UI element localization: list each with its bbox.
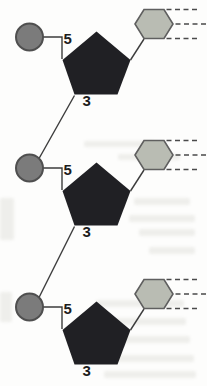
five-prime-label: 5 bbox=[64, 300, 72, 317]
five-prime-label: 5 bbox=[64, 161, 72, 178]
phosphate-circle-icon bbox=[16, 155, 43, 182]
backbone-bond-line bbox=[39, 227, 75, 298]
page: 5 3 5 3 bbox=[0, 0, 207, 386]
three-prime-label: 3 bbox=[83, 92, 91, 109]
sugar-pentagon-icon bbox=[63, 163, 131, 226]
phosphate-bond-line bbox=[43, 168, 62, 190]
phosphate-bond-line bbox=[43, 307, 62, 329]
phosphate-circle-icon bbox=[16, 24, 43, 51]
sugar-pentagon-icon bbox=[63, 302, 131, 365]
dna-strand-diagram: 5 3 5 3 bbox=[0, 0, 207, 386]
three-prime-label: 3 bbox=[83, 362, 91, 379]
base-hexagon-icon bbox=[135, 10, 173, 39]
phosphate-bond-line bbox=[43, 37, 62, 59]
base-hexagon-icon bbox=[135, 141, 173, 170]
glycosidic-bond-line bbox=[131, 170, 145, 191]
nucleotide-unit: 5 3 bbox=[16, 280, 207, 379]
base-hexagon-icon bbox=[135, 280, 173, 309]
five-prime-label: 5 bbox=[64, 30, 72, 47]
nucleotide-unit: 5 3 bbox=[16, 141, 207, 240]
phosphate-circle-icon bbox=[16, 294, 43, 321]
nucleotide-unit: 5 3 bbox=[16, 10, 207, 109]
sugar-pentagon-icon bbox=[63, 32, 131, 95]
glycosidic-bond-line bbox=[131, 39, 145, 60]
three-prime-label: 3 bbox=[83, 223, 91, 240]
backbone-bond-line bbox=[39, 96, 75, 159]
glycosidic-bond-line bbox=[131, 309, 145, 330]
